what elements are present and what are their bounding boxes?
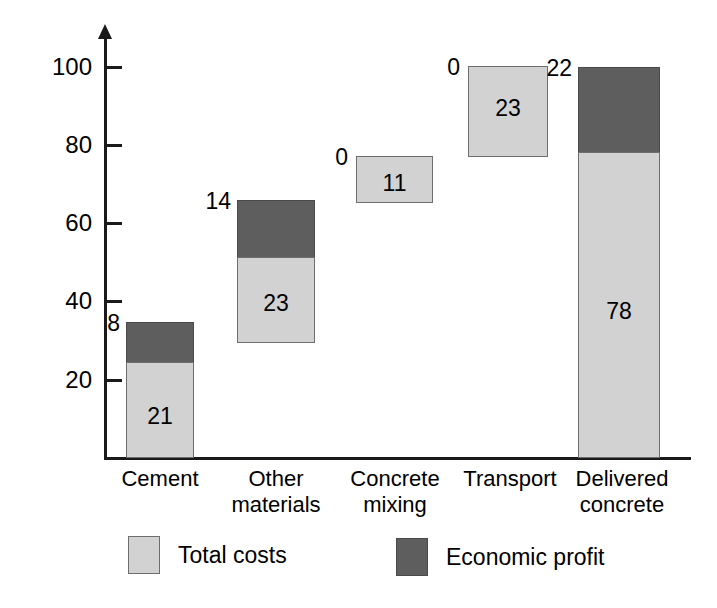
y-tick-60 <box>107 222 122 225</box>
bar-other-materials-cost-value: 23 <box>238 292 314 315</box>
y-tick-80 <box>107 144 122 147</box>
x-label-delivered-concrete-line2: concrete <box>558 492 686 518</box>
chart-legend: Total costs Economic profit <box>0 530 717 590</box>
x-label-other-materials: Other materials <box>212 466 340 518</box>
x-label-cement: Cement <box>100 466 220 492</box>
x-label-transport: Transport <box>446 466 574 492</box>
x-label-concrete-mixing: Concrete mixing <box>331 466 459 518</box>
y-axis-arrow-icon <box>98 24 112 39</box>
bar-other-materials-cost-segment[interactable]: 23 <box>237 257 315 343</box>
bar-concrete-mixing-cost-value: 11 <box>357 172 432 195</box>
x-label-transport-line1: Transport <box>446 466 574 492</box>
bar-other-materials-profit-segment[interactable] <box>237 200 315 258</box>
x-label-delivered-concrete-line1: Delivered <box>558 466 686 492</box>
bar-cement-cost-value: 21 <box>127 405 193 428</box>
legend-swatch-total-costs-icon <box>128 536 160 574</box>
bar-delivered-concrete-cost-segment[interactable]: 78 <box>578 152 660 458</box>
bar-concrete-mixing-top-label: 0 <box>302 146 348 169</box>
bar-other-materials[interactable]: 23 <box>237 200 315 343</box>
legend-label-total-costs: Total costs <box>178 544 287 567</box>
y-axis-line <box>104 36 107 460</box>
bar-cement[interactable]: 21 <box>126 322 194 458</box>
bar-other-materials-top-label: 14 <box>177 190 231 213</box>
legend-label-economic-profit: Economic profit <box>446 546 605 569</box>
x-label-concrete-mixing-line1: Concrete <box>331 466 459 492</box>
x-label-delivered-concrete: Delivered concrete <box>558 466 686 518</box>
bar-cement-cost-segment[interactable]: 21 <box>126 362 194 458</box>
plot-area: Price/Cost Index 100 80 60 40 20 21 8 23 <box>0 0 717 608</box>
y-tick-label-80: 80 <box>0 133 92 157</box>
legend-swatch-economic-profit-icon <box>396 538 428 576</box>
bar-concrete-mixing-cost-segment[interactable]: 11 <box>356 156 433 203</box>
x-label-other-materials-line2: materials <box>212 492 340 518</box>
y-tick-100 <box>107 66 122 69</box>
bar-concrete-mixing[interactable]: 11 <box>356 156 433 203</box>
y-tick-40 <box>107 300 122 303</box>
y-tick-label-60: 60 <box>0 211 92 235</box>
bar-delivered-concrete-profit-segment[interactable] <box>578 67 660 153</box>
legend-item-total-costs[interactable]: Total costs <box>128 536 287 574</box>
y-tick-label-40: 40 <box>0 289 92 313</box>
y-tick-20 <box>107 379 122 382</box>
bar-transport-cost-value: 23 <box>469 97 547 120</box>
bar-delivered-concrete-cost-value: 78 <box>579 300 659 323</box>
bar-cement-top-label: 8 <box>66 312 120 335</box>
bar-delivered-concrete-top-label: 22 <box>518 57 572 80</box>
y-tick-label-100: 100 <box>0 55 92 79</box>
y-tick-label-20: 20 <box>0 368 92 392</box>
bar-delivered-concrete[interactable]: 78 <box>578 67 660 458</box>
legend-item-economic-profit[interactable]: Economic profit <box>396 538 605 576</box>
bar-transport-top-label: 0 <box>414 56 460 79</box>
chart-page: Price/Cost Index 100 80 60 40 20 21 8 23 <box>0 0 717 608</box>
x-label-concrete-mixing-line2: mixing <box>331 492 459 518</box>
bar-cement-profit-segment[interactable] <box>126 322 194 363</box>
x-label-other-materials-line1: Other <box>212 466 340 492</box>
x-label-cement-line1: Cement <box>100 466 220 492</box>
